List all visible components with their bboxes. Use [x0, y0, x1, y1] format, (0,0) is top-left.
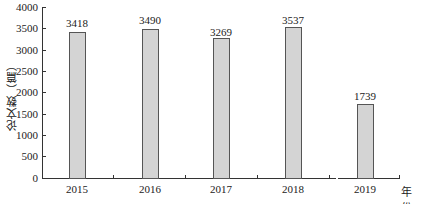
y-tick [42, 92, 46, 93]
y-tick [42, 28, 46, 29]
x-tick-label: 2018 [273, 184, 313, 195]
y-tick [42, 71, 46, 72]
y-tick [42, 156, 46, 157]
bar-2015 [69, 32, 86, 179]
y-tick [42, 114, 46, 115]
bar-2018 [285, 27, 302, 179]
y-tick [42, 135, 46, 136]
data-label: 3537 [273, 15, 313, 26]
x-tick-label: 2017 [201, 184, 241, 195]
y-tick-label: 1500 [6, 109, 38, 120]
x-tick-label: 2015 [57, 184, 97, 195]
y-tick-label: 2500 [6, 66, 38, 77]
bar-2019 [357, 104, 374, 179]
bar-chart: 论文数（篇） 4000 3500 3000 2500 2000 1500 100… [0, 0, 422, 204]
data-label: 3269 [201, 27, 241, 38]
x-tick [113, 175, 114, 178]
y-tick-label: 3500 [6, 23, 38, 34]
x-tick-label: 2016 [130, 184, 170, 195]
data-label: 1739 [345, 91, 385, 102]
x-tick-label: 2019 [345, 184, 385, 195]
x-tick [257, 175, 258, 178]
y-axis [42, 7, 43, 179]
y-tick-label: 4000 [6, 2, 38, 13]
y-tick-label: 1000 [6, 130, 38, 141]
x-tick [399, 175, 400, 178]
x-tick [185, 175, 186, 178]
bar-2016 [142, 29, 159, 179]
data-label: 3418 [57, 18, 97, 29]
y-tick-label: 3000 [6, 45, 38, 56]
y-tick-label: 2000 [6, 87, 38, 98]
y-tick [42, 7, 46, 8]
y-tick-label: 0 [6, 173, 38, 184]
x-tick [329, 175, 330, 178]
y-tick-label: 500 [6, 151, 38, 162]
data-label: 3490 [130, 15, 170, 26]
x-axis-label: 年份 [401, 183, 422, 204]
bar-2017 [213, 38, 230, 179]
y-tick [42, 50, 46, 51]
